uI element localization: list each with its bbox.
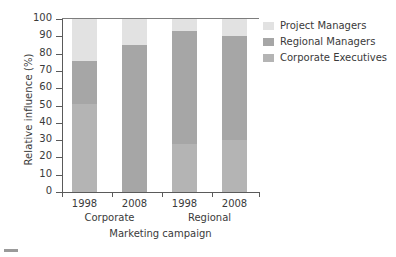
legend-swatch-icon [263,22,274,30]
bar-segment [222,19,247,36]
x-axis-tick [112,192,113,197]
x-axis-group-label: Corporate [60,212,160,223]
y-axis-tick-label: 30 [12,134,52,144]
legend-item: Project Managers [263,18,387,33]
bar-segment [172,19,197,31]
legend-item: Corporate Executives [263,50,387,65]
plot-area [62,19,258,192]
bar-segment [122,45,147,192]
x-axis-tick [259,192,260,197]
bar-segment [222,36,247,140]
legend-item-label: Regional Managers [280,36,375,47]
bar-segment [72,61,97,104]
y-axis-tick-label: 50 [12,100,52,110]
legend-swatch-icon [263,54,274,62]
bar-stack [222,19,247,192]
bar-stack [72,19,97,192]
legend-swatch-icon [263,38,274,46]
y-axis-tick-label: 100 [12,13,52,23]
y-axis-tick-label: 10 [12,169,52,179]
x-axis-category-label: 2008 [210,198,260,209]
y-axis-tick-label: 0 [12,186,52,196]
legend-item: Regional Managers [263,34,387,49]
bar-segment [72,104,97,192]
y-axis-tick-label: 20 [12,151,52,161]
bar-stack [172,19,197,192]
x-axis-tick [162,192,163,197]
legend-item-label: Corporate Executives [280,52,387,63]
y-axis-tick-label: 70 [12,65,52,75]
y-axis-tick-label: 90 [12,30,52,40]
bar-segment [122,19,147,45]
x-axis-group-label: Regional [160,212,260,223]
legend-item-label: Project Managers [280,20,366,31]
x-axis-category-label: 1998 [60,198,110,209]
bar-segment [222,140,247,192]
x-axis-category-label: 2008 [110,198,160,209]
x-axis-title: Marketing campaign [62,228,259,239]
x-axis-category-label: 1998 [160,198,210,209]
bar-segment [72,19,97,61]
bar-segment [172,31,197,143]
y-axis-tick-label: 80 [12,48,52,58]
bar-stack [122,19,147,192]
y-axis-tick-label: 40 [12,117,52,127]
x-axis-tick [62,192,63,197]
bar-segment [172,144,197,192]
x-axis-line [62,192,259,193]
scan-artifact-mark [4,249,18,252]
stacked-bar-chart-figure: Relative influence (%) 01020304050607080… [0,0,396,257]
chart-legend: Project ManagersRegional ManagersCorpora… [263,18,387,66]
y-axis-tick-label: 60 [12,82,52,92]
x-axis-tick [212,192,213,197]
